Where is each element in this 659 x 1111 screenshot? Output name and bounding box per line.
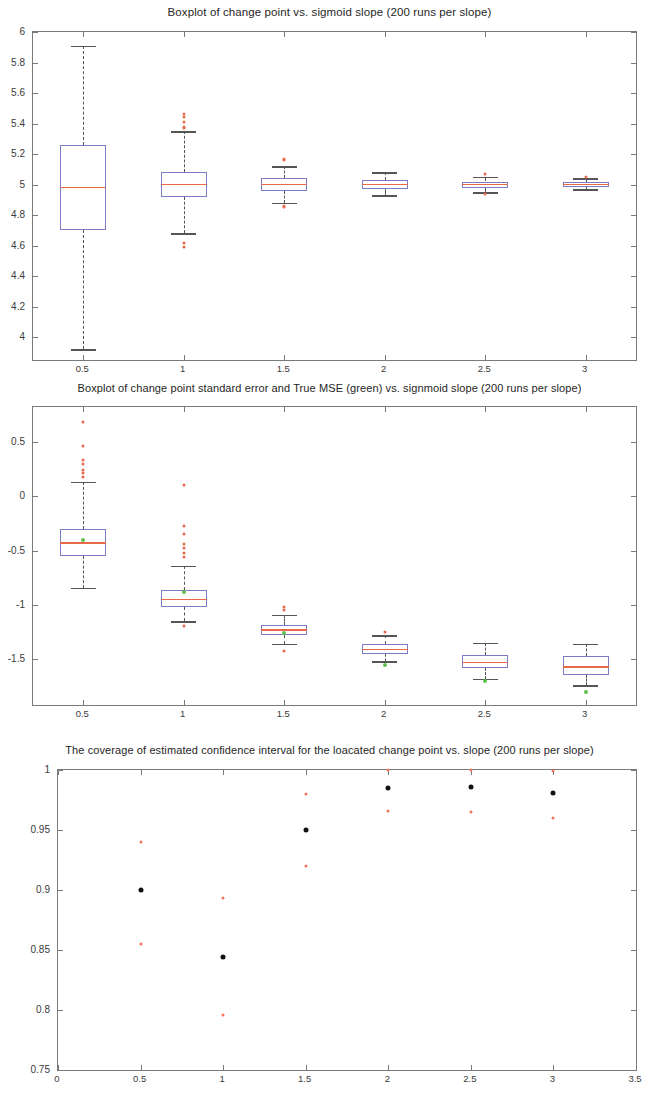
x-tick [485,700,486,705]
true-mse-marker [81,538,85,542]
whisker-cap-upper [71,46,96,47]
whisker-cap-lower [272,644,297,645]
y-tick-right [631,276,636,277]
x-tick [141,1065,142,1070]
y-tick-label: 5.8 [0,56,25,67]
x-tick-top [306,770,307,775]
y-tick [33,93,38,94]
whisker-cap-upper [372,172,397,173]
x-tick-top [385,32,386,37]
x-tick-top [184,32,185,37]
y-tick-label: 5.6 [0,87,25,98]
true-mse-marker [383,663,387,667]
coverage-point [138,888,143,893]
x-tick-label: 0.5 [76,363,89,374]
y-tick-label: 0 [0,490,25,501]
x-tick-label: 3 [582,363,587,374]
outlier-point [584,175,587,178]
median-line [60,542,106,544]
x-tick-top [485,407,486,412]
x-tick-top [284,407,285,412]
median-line [462,662,508,664]
y-tick [33,276,38,277]
x-tick-top [83,32,84,37]
outlier-point [182,624,185,627]
coverage-point [221,955,226,960]
x-tick-label: 2.5 [478,363,491,374]
x-tick-label: 1.5 [277,708,290,719]
x-tick [636,1065,637,1070]
x-tick [58,1065,59,1070]
y-tick [33,337,38,338]
y-tick [33,605,38,606]
y-tick [33,124,38,125]
median-line [462,184,508,186]
outlier-point [383,631,386,634]
y-tick-right [631,337,636,338]
median-line [362,649,408,651]
y-tick-right [631,890,636,891]
whisker-lower [184,607,185,621]
outlier-point [182,484,185,487]
whisker-cap-upper [171,566,196,567]
y-tick-right [631,124,636,125]
outlier-point [182,127,185,130]
y-tick [58,890,63,891]
x-tick [284,700,285,705]
x-tick-top [223,770,224,775]
outlier-point [82,475,85,478]
median-line [563,184,609,186]
whisker-cap-lower [71,588,96,589]
x-tick [385,700,386,705]
y-tick [33,185,38,186]
x-tick-label: 2 [381,363,386,374]
true-mse-marker [584,690,588,694]
y-tick [33,659,38,660]
median-line [161,599,207,601]
whisker-cap-lower [573,685,598,686]
x-tick [553,1065,554,1070]
x-tick-label: 2 [385,1073,390,1084]
x-tick [586,355,587,360]
coverage-point [551,790,556,795]
coverage-bound-point [222,1013,225,1016]
x-tick-label: 1.5 [277,363,290,374]
outlier-point [182,556,185,559]
x-tick-top [636,770,637,775]
x-tick [83,355,84,360]
y-tick-right [631,1010,636,1011]
outlier-point [182,533,185,536]
y-tick-label: 1 [0,764,50,775]
panel-coverage-scatter: The coverage of estimated confidence int… [0,738,659,1111]
outlier-point [182,543,185,546]
coverage-bound-point [552,817,555,820]
y-tick [33,246,38,247]
whisker-lower [284,635,285,644]
y-tick-right [631,307,636,308]
whisker-cap-lower [372,195,397,196]
coverage-bound-point [304,793,307,796]
panel2-title: Boxplot of change point standard error a… [0,382,659,394]
whisker-upper [83,46,84,145]
y-tick [33,551,38,552]
whisker-cap-upper [272,615,297,616]
panel1-axes [32,31,637,361]
y-tick-right [631,215,636,216]
y-tick-label: 0.9 [0,884,50,895]
coverage-bound-point [387,769,390,772]
outlier-point [82,462,85,465]
y-tick-label: 4.4 [0,270,25,281]
x-tick-label: 3 [550,1073,555,1084]
y-tick-label: 6 [0,26,25,37]
x-tick-top [485,32,486,37]
whisker-upper [83,482,84,529]
x-tick [471,1065,472,1070]
panel-boxplot-change-point: Boxplot of change point vs. sigmoid slop… [0,0,659,378]
x-tick [385,355,386,360]
y-tick-label: 0.85 [0,944,50,955]
whisker-lower [83,556,84,588]
coverage-bound-point [469,769,472,772]
x-tick-top [586,407,587,412]
y-tick-label: -1.5 [0,653,25,664]
y-tick-label: 4 [0,331,25,342]
